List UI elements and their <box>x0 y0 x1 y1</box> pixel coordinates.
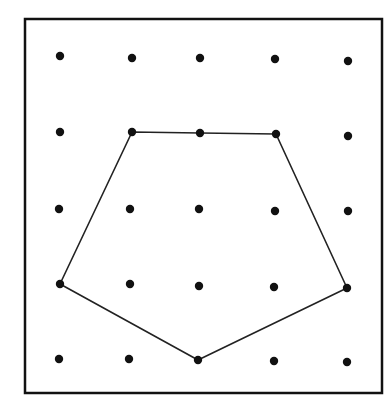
peg-dot-r0-c2 <box>196 54 204 62</box>
peg-dot-r1-c0 <box>56 128 64 136</box>
geoboard-diagram <box>0 0 391 411</box>
peg-dot-r2-c2 <box>195 205 203 213</box>
peg-dot-r1-c2 <box>196 129 204 137</box>
peg-dot-r1-c4 <box>344 132 352 140</box>
peg-dot-r2-c1 <box>126 205 134 213</box>
peg-dot-r4-c2 <box>194 356 202 364</box>
peg-dot-r3-c1 <box>126 280 134 288</box>
peg-dot-r2-c0 <box>55 205 63 213</box>
peg-dot-r4-c4 <box>343 358 351 366</box>
peg-dot-r3-c2 <box>195 282 203 290</box>
peg-dot-r0-c0 <box>56 52 64 60</box>
peg-dot-r0-c3 <box>271 55 279 63</box>
peg-dot-r2-c4 <box>344 207 352 215</box>
peg-dot-r3-c3 <box>270 283 278 291</box>
peg-dot-r2-c3 <box>271 207 279 215</box>
peg-dot-r1-c1 <box>128 128 136 136</box>
board-frame <box>25 19 382 393</box>
peg-dot-r4-c0 <box>55 355 63 363</box>
peg-dot-r4-c3 <box>270 357 278 365</box>
pentagon-shape <box>60 132 347 360</box>
peg-dot-r3-c0 <box>56 280 64 288</box>
peg-dot-r3-c4 <box>343 284 351 292</box>
peg-dot-r0-c4 <box>344 57 352 65</box>
peg-dot-r0-c1 <box>128 54 136 62</box>
peg-dot-r4-c1 <box>125 355 133 363</box>
peg-dot-r1-c3 <box>272 130 280 138</box>
